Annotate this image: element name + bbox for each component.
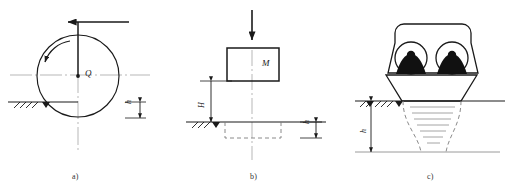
ground-hatching-a bbox=[14, 102, 38, 108]
stress-lines-c bbox=[410, 107, 455, 143]
rotation-arrow-a bbox=[45, 41, 70, 62]
load-point-a bbox=[76, 74, 80, 78]
panel-b bbox=[186, 10, 326, 160]
panel-c bbox=[355, 24, 505, 152]
load-label-a: Q bbox=[85, 68, 92, 78]
panel-a bbox=[8, 22, 150, 150]
hub-cap-right-c bbox=[448, 51, 456, 59]
stress-bulb-left-c bbox=[403, 101, 421, 152]
depth-label-a: h bbox=[124, 100, 133, 104]
caption-c: c) bbox=[427, 172, 434, 181]
figure-container: Q h M H h h a) b) c) bbox=[0, 0, 505, 192]
depth-label-c: h bbox=[359, 129, 368, 133]
caption-b: b) bbox=[250, 172, 257, 181]
depth-label-b: h bbox=[302, 120, 311, 124]
dashed-imprint-rectangle-b bbox=[225, 122, 281, 138]
diagram-canvas bbox=[0, 0, 505, 192]
ground-hatching-b bbox=[192, 122, 210, 128]
caption-a: a) bbox=[72, 172, 79, 181]
stress-bulb-right-c bbox=[446, 101, 461, 152]
height-label-b: H bbox=[197, 102, 206, 108]
hub-cap-left-c bbox=[407, 51, 415, 59]
base-plate-trapezoid-c bbox=[386, 75, 477, 101]
mass-label-b: M bbox=[262, 58, 270, 68]
mass-block-b bbox=[227, 48, 279, 81]
support-triangle-c2 bbox=[395, 101, 403, 107]
ground-hatching-c bbox=[360, 101, 393, 107]
support-triangle-b bbox=[212, 122, 220, 128]
